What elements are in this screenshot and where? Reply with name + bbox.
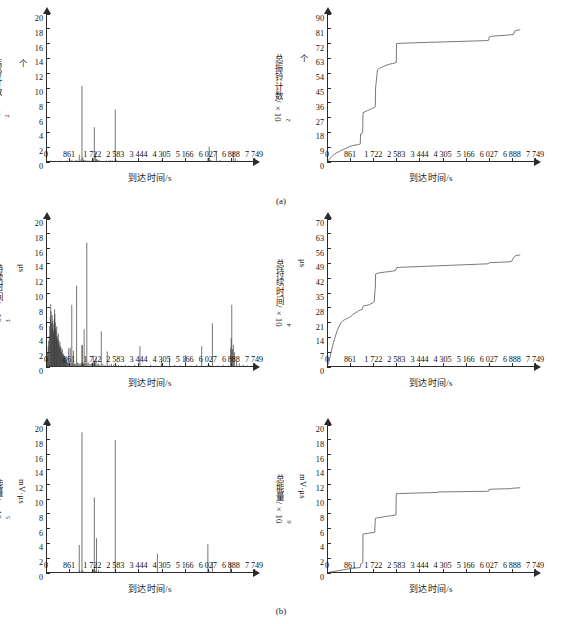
y-axis-tick [46, 322, 50, 323]
x-axis-tick-label: 1 722 [83, 150, 101, 159]
y-axis-tick-label: 0 [320, 367, 324, 376]
stem-series-energy [46, 425, 254, 573]
x-axis-tick-label: 4 305 [153, 150, 171, 159]
y-axis-tick-label: 70 [316, 219, 324, 228]
y-axis-tick [327, 233, 331, 234]
y-axis-tick [46, 352, 50, 353]
x-axis-tick-label: 0 [325, 561, 329, 570]
x-axis-tick-label: 861 [344, 150, 356, 159]
x-axis-tick-label: 3 444 [410, 355, 428, 364]
y-axis-tick-label: 0 [39, 367, 43, 376]
x-axis-label: 到达时间/s [46, 376, 254, 389]
y-axis-tick-label: 90 [316, 14, 324, 23]
y-axis-tick [46, 337, 50, 338]
x-axis-tick-label: 861 [63, 150, 75, 159]
y-axis-tick [327, 263, 331, 264]
x-axis-tick-label: 4 305 [434, 561, 452, 570]
x-axis-tick-label: 5 166 [457, 355, 475, 364]
x-axis-tick-label: 3 444 [129, 150, 147, 159]
y-axis-tick-label: 8 [39, 102, 43, 111]
y-axis-tick [327, 28, 331, 29]
y-axis-tick-label: 21 [316, 322, 324, 331]
cumulative-curve [327, 30, 520, 162]
y-axis-tick [327, 248, 331, 249]
y-axis-tick-label: 0 [39, 162, 43, 171]
x-axis-tick-label: 4 305 [153, 561, 171, 570]
y-axis-tick [46, 293, 50, 294]
plot-area-duration-cumulative: 07142128354249566370 [327, 219, 535, 367]
y-axis-tick [46, 233, 50, 234]
y-axis-label-duration: 持续时间/×103 μs [2, 219, 16, 367]
y-axis-tick-label: 14 [35, 58, 43, 67]
y-axis-tick [46, 484, 50, 485]
y-axis-tick-label: 0 [39, 573, 43, 582]
x-axis-tick-label: 5 166 [176, 150, 194, 159]
y-axis-tick [327, 513, 331, 514]
x-axis-tick-label: 4 305 [153, 355, 171, 364]
y-axis-tick [327, 322, 331, 323]
y-axis-tick [327, 117, 331, 118]
y-axis-tick [46, 117, 50, 118]
chart-ring-count-cumulative: 总振铃计数/×102个 09182736455463728190 到达时间/s … [281, 0, 562, 200]
y-axis-label-total-ring-count: 总振铃计数/×102个 [283, 14, 297, 162]
y-axis-tick-label: 2 [320, 558, 324, 567]
x-axis-tick-label: 0 [44, 355, 48, 364]
y-axis-tick [46, 499, 50, 500]
plot-area-duration-rate: 02468101214161820 [46, 219, 254, 367]
panel-row-b: 持续时间/×103 μs 02468101214161820 到达时间/s 08… [0, 205, 562, 413]
y-axis-tick [46, 278, 50, 279]
stem-group [48, 432, 253, 573]
y-axis-tick-label: 20 [35, 425, 43, 434]
y-axis-tick-label: 16 [316, 454, 324, 463]
y-axis-tick-label: 4 [320, 543, 324, 552]
y-axis-tick-label: 35 [316, 293, 324, 302]
y-axis-tick [46, 454, 50, 455]
y-axis-tick [327, 102, 331, 103]
y-axis-tick [46, 88, 50, 89]
y-axis-tick [327, 147, 331, 148]
y-axis-tick [46, 248, 50, 249]
y-axis-tick-label: 10 [35, 293, 43, 302]
y-axis-tick [327, 469, 331, 470]
y-axis-tick-label: 10 [35, 499, 43, 508]
cumulative-line-ring-count [327, 14, 535, 162]
x-axis-tick-label: 861 [63, 561, 75, 570]
acoustic-emission-figure: 振铃计数/×102个 02468101214161820 到达时间/s 0861… [0, 0, 562, 624]
x-axis-tick-label: 6 888 [503, 150, 521, 159]
y-axis-tick [46, 543, 50, 544]
y-axis-tick-label: 20 [35, 219, 43, 228]
y-axis-tick-label: 7 [320, 352, 324, 361]
y-axis-tick [46, 263, 50, 264]
panel-row-c: 能量/×105 mV·μs 02468101214161820 到达时间/s 0… [0, 411, 562, 619]
x-axis-label: 到达时间/s [327, 582, 535, 595]
x-axis-tick-label: 0 [44, 561, 48, 570]
x-axis-label: 到达时间/s [327, 376, 535, 389]
x-axis-tick-label: 0 [44, 150, 48, 159]
y-axis-tick [327, 307, 331, 308]
x-axis-tick-label: 2 583 [387, 561, 405, 570]
y-axis-tick-label: 12 [35, 278, 43, 287]
y-axis-tick-label: 10 [316, 499, 324, 508]
x-axis-tick-label: 3 444 [129, 355, 147, 364]
y-axis-tick-label: 8 [39, 513, 43, 522]
x-axis-tick-label: 7 749 [526, 150, 544, 159]
y-axis-tick [46, 439, 50, 440]
y-axis-tick-label: 8 [320, 513, 324, 522]
cumulative-line-duration [327, 219, 535, 367]
y-axis-tick-label: 18 [35, 439, 43, 448]
y-axis-tick-label: 18 [35, 233, 43, 242]
y-axis-label-energy: 能量/×105 mV·μs [2, 425, 16, 573]
y-axis-tick-label: 18 [35, 28, 43, 37]
y-axis-tick-label: 20 [316, 425, 324, 434]
y-axis-tick-label: 9 [320, 147, 324, 156]
x-axis-tick-label: 1 722 [364, 150, 382, 159]
y-axis-tick [46, 147, 50, 148]
x-axis-tick-label: 5 166 [457, 150, 475, 159]
y-axis-tick [46, 219, 50, 220]
y-axis-tick-label: 2 [39, 147, 43, 156]
y-axis-tick-label: 12 [316, 484, 324, 493]
y-axis-tick-label: 20 [35, 14, 43, 23]
y-axis-tick [327, 132, 331, 133]
plot-area-ring-count-cumulative: 09182736455463728190 [327, 14, 535, 162]
y-axis-tick-label: 16 [35, 248, 43, 257]
